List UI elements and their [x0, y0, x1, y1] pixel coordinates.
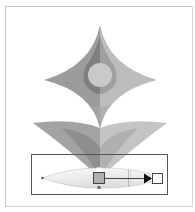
gradient-end-stop — [153, 174, 163, 184]
gradient-ellipse-left-handle — [41, 177, 44, 180]
gradient-annotator[interactable] — [41, 168, 162, 190]
artwork-canvas[interactable] — [0, 0, 195, 212]
gradient-origin-stop — [94, 173, 105, 184]
star-shape[interactable] — [44, 25, 157, 130]
gradient-origin-marker — [98, 186, 101, 189]
inner-circle — [88, 63, 112, 87]
